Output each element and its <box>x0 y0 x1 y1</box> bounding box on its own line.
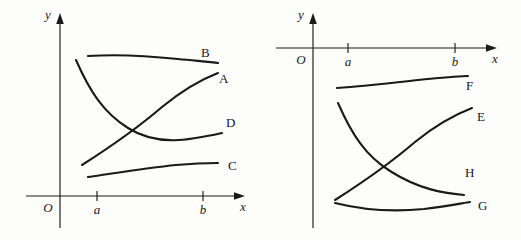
right-curve-label-g: G <box>478 198 487 213</box>
left-curve-a <box>82 73 218 165</box>
left-tick-label-b: b <box>200 202 207 217</box>
left-curve-label-a: A <box>219 71 229 86</box>
right-y-axis-arrowhead <box>309 13 317 24</box>
right-tick-label-a: a <box>345 54 352 69</box>
left-curve-label-d: D <box>226 115 235 130</box>
left-tick-label-a: a <box>94 202 101 217</box>
right-curve-label-h: H <box>465 165 474 180</box>
left-y-axis-arrowhead <box>56 13 64 24</box>
figure-root: y x O a b B A D C y x O a b F <box>0 0 521 240</box>
right-curve-f <box>337 76 468 88</box>
left-curve-label-b: B <box>201 45 210 60</box>
right-curve-label-f: F <box>466 78 473 93</box>
right-origin-label: O <box>296 52 306 67</box>
left-curve-label-c: C <box>228 158 237 173</box>
right-curve-g <box>335 202 470 210</box>
left-x-axis-label: x <box>239 199 246 214</box>
right-curve-e <box>335 108 472 200</box>
left-curve-c <box>88 163 218 177</box>
right-tick-label-b: b <box>452 54 459 69</box>
left-coordinate-panel: y x O a b B A D C <box>0 0 260 240</box>
left-curve-d <box>76 60 222 140</box>
left-curve-b <box>88 55 218 63</box>
right-coordinate-panel: y x O a b F E H G <box>260 0 521 240</box>
right-x-axis-label: x <box>491 51 498 66</box>
right-curve-h <box>338 103 464 195</box>
left-y-axis-label: y <box>43 7 51 22</box>
right-curve-label-e: E <box>477 109 485 124</box>
left-origin-label: O <box>43 200 53 215</box>
right-y-axis-label: y <box>296 7 304 22</box>
